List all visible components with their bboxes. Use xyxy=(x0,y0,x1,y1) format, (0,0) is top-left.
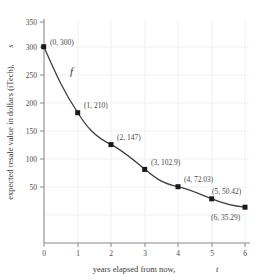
chart-figure: 350 300 250 200 150 100 50 0 1 2 3 4 5 6 xyxy=(0,0,260,280)
x-tick-label-6: 6 xyxy=(243,249,247,258)
y-tick-label-200: 200 xyxy=(26,99,38,108)
x-tick-label-1: 1 xyxy=(76,249,80,258)
y-tick-label-350: 350 xyxy=(26,18,38,27)
data-point-0[interactable] xyxy=(41,44,46,49)
point-label-5: (5, 50.42) xyxy=(212,187,242,196)
point-label-4: (4, 72.03) xyxy=(184,175,214,184)
data-point-1[interactable] xyxy=(75,110,80,115)
x-tick-label-5: 5 xyxy=(210,249,214,258)
point-label-0: (0, 300) xyxy=(50,38,74,47)
resale-value-decay-chart: 350 300 250 200 150 100 50 0 1 2 3 4 5 6 xyxy=(0,0,260,280)
y-tick-label-50: 50 xyxy=(30,183,38,192)
point-label-3: (3, 102.9) xyxy=(151,158,181,167)
x-tick-label-2: 2 xyxy=(109,249,113,258)
y-tick-label-150: 150 xyxy=(26,127,38,136)
data-point-4[interactable] xyxy=(176,184,181,189)
x-tick-label-4: 4 xyxy=(176,249,180,258)
data-point-2[interactable] xyxy=(109,142,114,147)
data-point-3[interactable] xyxy=(142,167,147,172)
point-label-1: (1, 210) xyxy=(84,101,108,110)
y-tick-label-250: 250 xyxy=(26,71,38,80)
y-tick-label-300: 300 xyxy=(26,43,38,52)
y-axis-title: expected resale value in dollars (iTech)… xyxy=(5,64,15,199)
data-point-5[interactable] xyxy=(209,196,214,201)
point-label-2: (2, 147) xyxy=(117,133,141,142)
x-tick-label-3: 3 xyxy=(143,249,147,258)
x-axis-title: years elapsed from now, xyxy=(93,264,176,274)
data-point-6[interactable] xyxy=(243,205,248,210)
x-tick-label-0: 0 xyxy=(42,249,46,258)
y-tick-label-100: 100 xyxy=(26,155,38,164)
point-label-6: (6, 35.29) xyxy=(211,213,241,222)
